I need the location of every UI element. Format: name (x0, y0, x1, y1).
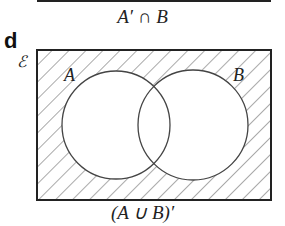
set-a-label: A (63, 65, 76, 85)
set-b-label: B (233, 65, 244, 85)
panel-caption: (A ∪ B)′ (0, 201, 285, 224)
venn-diagram: A B (0, 0, 285, 226)
